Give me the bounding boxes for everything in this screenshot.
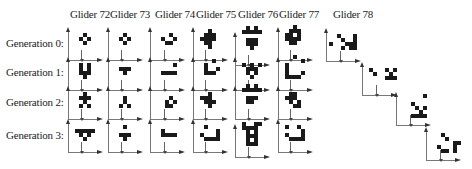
live-cell bbox=[258, 63, 262, 67]
live-cell bbox=[83, 41, 87, 45]
live-cell bbox=[123, 125, 127, 129]
origin-marker-icon bbox=[248, 147, 249, 157]
glider-plot bbox=[108, 117, 148, 153]
live-cell bbox=[250, 100, 254, 104]
glider-plot bbox=[235, 84, 275, 120]
column-header: Glider 75 bbox=[196, 8, 236, 20]
origin-marker-icon bbox=[248, 109, 249, 119]
live-cell bbox=[83, 75, 87, 79]
live-cell bbox=[445, 149, 449, 153]
live-cell bbox=[173, 63, 177, 67]
live-cell bbox=[173, 37, 177, 41]
live-cell bbox=[254, 96, 258, 100]
live-cell bbox=[423, 106, 427, 110]
glider-plot bbox=[235, 122, 275, 158]
live-cell bbox=[87, 133, 91, 137]
live-cell bbox=[285, 125, 289, 129]
live-cell bbox=[301, 59, 305, 63]
origin-marker-icon bbox=[290, 142, 291, 152]
glider-plot bbox=[150, 84, 190, 120]
y-axis-arrow-icon bbox=[68, 123, 69, 153]
y-axis-arrow-icon bbox=[108, 90, 109, 120]
live-cell bbox=[457, 141, 461, 145]
live-cell bbox=[250, 75, 254, 79]
live-cell bbox=[169, 104, 173, 108]
live-cell bbox=[250, 46, 254, 50]
live-cell bbox=[423, 114, 427, 118]
glider-plot bbox=[150, 117, 190, 153]
live-cell bbox=[127, 133, 131, 137]
live-cell bbox=[87, 96, 91, 100]
live-cell bbox=[127, 67, 131, 71]
origin-marker-icon bbox=[340, 51, 341, 61]
live-cell bbox=[87, 104, 91, 108]
y-axis-arrow-icon bbox=[326, 32, 327, 62]
live-cell bbox=[297, 104, 301, 108]
column-header: Glider 76 bbox=[238, 8, 278, 20]
glider-plot bbox=[193, 84, 233, 120]
live-cell bbox=[254, 42, 258, 46]
glider-plot bbox=[193, 117, 233, 153]
live-cell bbox=[258, 30, 262, 34]
y-axis-arrow-icon bbox=[235, 90, 236, 120]
y-axis-arrow-icon bbox=[278, 90, 279, 120]
live-cell bbox=[254, 71, 258, 75]
live-cell bbox=[173, 100, 177, 104]
live-cell bbox=[208, 104, 212, 108]
live-cell bbox=[208, 45, 212, 49]
live-cell bbox=[87, 71, 91, 75]
live-cell bbox=[258, 88, 262, 92]
column-header: Glider 73 bbox=[110, 8, 150, 20]
y-axis-arrow-icon bbox=[426, 131, 427, 161]
live-cell bbox=[127, 37, 131, 41]
glider-plot bbox=[108, 84, 148, 120]
y-axis-arrow-icon bbox=[150, 123, 151, 153]
live-cell bbox=[91, 129, 95, 133]
glider-plot bbox=[278, 84, 318, 120]
live-cell bbox=[212, 71, 216, 75]
live-cell bbox=[329, 42, 333, 46]
column-header: Glider 77 bbox=[279, 8, 319, 20]
origin-marker-icon bbox=[164, 142, 165, 152]
live-cell bbox=[204, 125, 208, 129]
glider-plot bbox=[68, 84, 108, 120]
y-axis-arrow-icon bbox=[278, 123, 279, 153]
live-cell bbox=[445, 137, 449, 141]
column-header: Glider 74 bbox=[155, 8, 195, 20]
glider-plot bbox=[396, 90, 436, 126]
live-cell bbox=[297, 37, 301, 41]
row-label: Generation 1: bbox=[6, 66, 64, 78]
y-axis-arrow-icon bbox=[108, 123, 109, 153]
live-cell bbox=[393, 76, 397, 80]
live-cell bbox=[87, 37, 91, 41]
row-label: Generation 3: bbox=[6, 129, 64, 141]
live-cell bbox=[216, 67, 220, 71]
live-cell bbox=[423, 94, 427, 98]
live-cell bbox=[293, 41, 297, 45]
origin-marker-icon bbox=[81, 142, 82, 152]
live-cell bbox=[393, 68, 397, 72]
origin-marker-icon bbox=[376, 85, 377, 95]
live-cell bbox=[301, 137, 305, 141]
live-cell bbox=[301, 71, 305, 75]
live-cell bbox=[212, 37, 216, 41]
live-cell bbox=[79, 104, 83, 108]
live-cell bbox=[293, 55, 297, 59]
live-cell bbox=[297, 75, 301, 79]
live-cell bbox=[123, 71, 127, 75]
live-cell bbox=[212, 59, 216, 63]
column-header: Glider 78 bbox=[333, 8, 373, 20]
y-axis-arrow-icon bbox=[193, 123, 194, 153]
origin-marker-icon bbox=[205, 142, 206, 152]
x-axis-arrow-icon bbox=[193, 152, 223, 153]
glider-plot bbox=[278, 117, 318, 153]
live-cell bbox=[173, 133, 177, 137]
glider-plot bbox=[326, 26, 366, 62]
y-axis-arrow-icon bbox=[362, 66, 363, 96]
y-axis-arrow-icon bbox=[193, 90, 194, 120]
x-axis-arrow-icon bbox=[278, 152, 308, 153]
y-axis-arrow-icon bbox=[396, 96, 397, 126]
glider-plot bbox=[68, 117, 108, 153]
column-header: Glider 72 bbox=[70, 8, 110, 20]
live-cell bbox=[173, 71, 177, 75]
